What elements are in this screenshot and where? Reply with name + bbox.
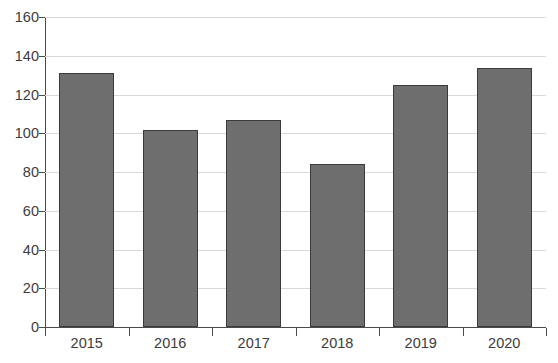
chart-title-clipped <box>0 0 558 5</box>
bar <box>59 73 114 327</box>
y-tick-mark <box>39 211 45 212</box>
x-tick-mark <box>379 328 380 336</box>
y-tick-label: 100 <box>5 126 39 141</box>
bar <box>393 85 448 327</box>
y-tick-mark <box>39 95 45 96</box>
y-tick-mark <box>39 288 45 289</box>
x-tick-label: 2016 <box>129 336 213 351</box>
y-tick-mark <box>39 133 45 134</box>
x-tick-mark <box>296 328 297 336</box>
y-tick-label: 80 <box>5 165 39 180</box>
x-tick-label: 2017 <box>212 336 296 351</box>
y-tick-label: 120 <box>5 88 39 103</box>
x-tick-mark <box>45 328 46 336</box>
gridline <box>45 250 546 251</box>
gridline <box>45 288 546 289</box>
gridline <box>45 95 546 96</box>
y-tick-label: 160 <box>5 10 39 25</box>
gridline <box>45 172 546 173</box>
x-tick-mark <box>463 328 464 336</box>
x-tick-label: 2019 <box>379 336 463 351</box>
y-tick-label: 60 <box>5 204 39 219</box>
y-tick-mark <box>39 17 45 18</box>
x-tick-label: 2015 <box>45 336 129 351</box>
y-tick-label: 0 <box>5 320 39 335</box>
y-tick-label: 140 <box>5 49 39 64</box>
y-tick-mark <box>39 56 45 57</box>
x-tick-mark <box>212 328 213 336</box>
bar-chart: 020406080100120140160 201520162017201820… <box>0 0 558 363</box>
x-tick-mark <box>129 328 130 336</box>
gridline <box>45 17 546 18</box>
bar <box>310 164 365 327</box>
y-tick-mark <box>39 172 45 173</box>
gridline <box>45 211 546 212</box>
x-tick-label: 2018 <box>296 336 380 351</box>
gridline <box>45 133 546 134</box>
x-tick-mark <box>546 328 547 336</box>
bar <box>143 130 198 327</box>
x-tick-label: 2020 <box>463 336 547 351</box>
y-tick-label: 40 <box>5 243 39 258</box>
gridline <box>45 56 546 57</box>
bar <box>226 120 281 327</box>
y-tick-mark <box>39 250 45 251</box>
y-tick-label: 20 <box>5 281 39 296</box>
bar <box>477 68 532 327</box>
